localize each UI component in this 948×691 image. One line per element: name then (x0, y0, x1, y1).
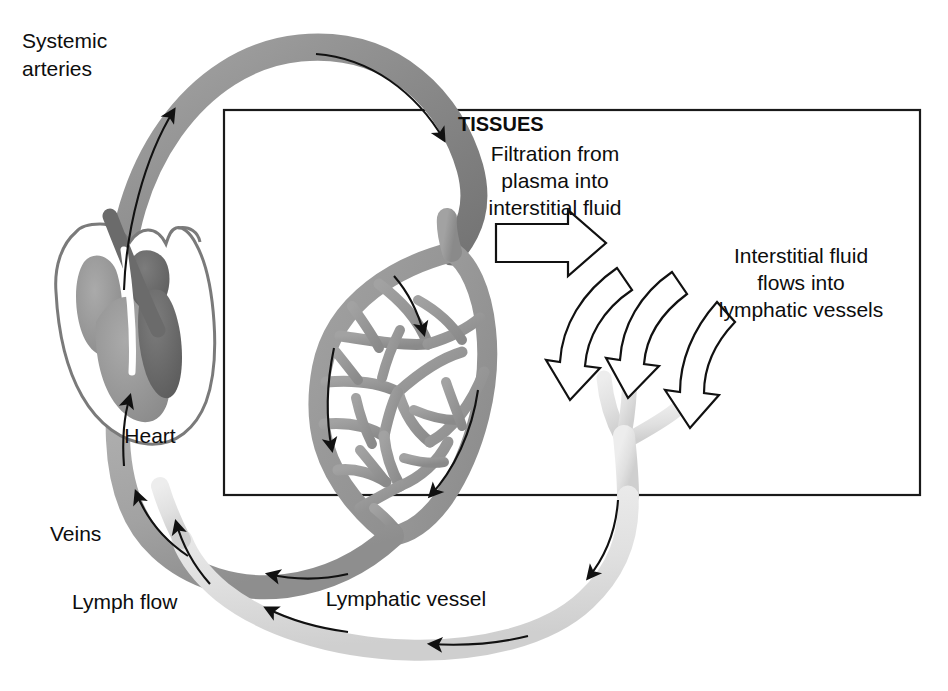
capillary-bed (318, 218, 487, 536)
interstitial-label-line3: lymphatic vessels (719, 298, 884, 321)
heart-label: Heart (124, 424, 176, 447)
diagram-canvas: Systemic arteries Heart Veins Lymph flow… (0, 0, 948, 691)
tissues-label: TISSUES (458, 113, 544, 135)
lymphatic-vessel (160, 486, 628, 650)
interstitial-inflow-arrows (546, 268, 735, 428)
systemic-arteries-label-line2: arteries (22, 57, 92, 80)
filtration-label-line1: Filtration from (491, 142, 619, 165)
interstitial-label-line2: flows into (757, 271, 845, 294)
lymph-flow-label: Lymph flow (72, 590, 178, 613)
lymphatic-circulation-diagram: Systemic arteries Heart Veins Lymph flow… (0, 0, 948, 691)
heart (56, 216, 215, 444)
interstitial-label-line1: Interstitial fluid (734, 244, 868, 267)
filtration-arrow (496, 210, 606, 276)
systemic-arteries-label-line1: Systemic (22, 29, 107, 52)
veins-label: Veins (50, 522, 101, 545)
filtration-label-line3: interstitial fluid (488, 196, 621, 219)
lymphatic-capillary (604, 368, 676, 496)
lymphatic-vessel-label: Lymphatic vessel (326, 587, 486, 610)
filtration-label-line2: plasma into (501, 169, 608, 192)
